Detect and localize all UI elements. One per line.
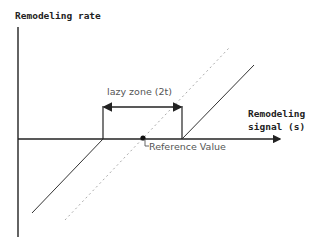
remodeling-rate-diagram: Remodeling rate Remodeling signal (s) la…	[0, 0, 330, 239]
solid-response-curve-upper	[182, 65, 254, 139]
x-axis-label-line2: signal (s)	[248, 121, 305, 132]
reference-value-label: Reference Value	[149, 141, 226, 152]
solid-response-curve-lower	[32, 139, 103, 213]
x-axis-label-line1: Remodeling	[248, 108, 305, 119]
dotted-proportional-line	[65, 48, 229, 220]
lazy-zone-label: lazy zone (2t)	[107, 86, 172, 97]
y-axis-label: Remodeling rate	[15, 10, 101, 21]
